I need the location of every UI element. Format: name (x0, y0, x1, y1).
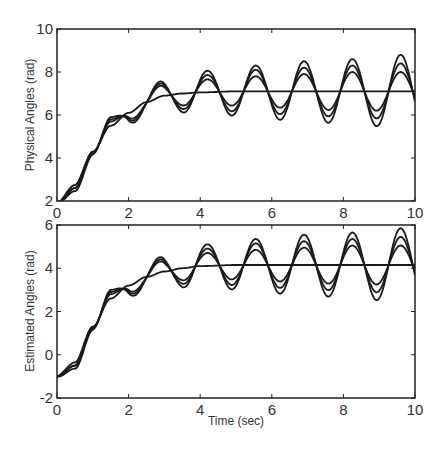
axes-frame (57, 29, 415, 201)
x-tick-label: 2 (124, 204, 132, 221)
y-tick-label: 8 (45, 63, 53, 80)
x-tick-label: 6 (268, 204, 276, 221)
series-response-large (57, 55, 415, 203)
x-tick-label: 2 (124, 401, 132, 418)
y-tick-label: 2 (45, 303, 53, 320)
y-axis-label-bottom: Estimated Angles (rad) (23, 250, 37, 371)
series-response-large (57, 228, 415, 376)
y-tick-label: 4 (45, 259, 53, 276)
x-tick-label: 8 (339, 401, 347, 418)
y-tick-label: 6 (45, 216, 53, 233)
y-tick-label: 10 (36, 20, 53, 37)
y-tick-label: 6 (45, 106, 53, 123)
x-tick-label: 6 (268, 401, 276, 418)
x-tick-label: 0 (53, 204, 61, 221)
x-tick-label: 10 (407, 204, 424, 221)
x-tick-label: 10 (407, 401, 424, 418)
plot-physical-angles: 0246810246810 (36, 20, 423, 221)
x-tick-label: 4 (196, 204, 204, 221)
figure: 0246810246810 0246810-20246 Physical Ang… (0, 0, 442, 451)
x-axis-label: Time (sec) (208, 414, 264, 428)
y-tick-label: 2 (45, 192, 53, 209)
x-tick-label: 4 (196, 401, 204, 418)
x-tick-label: 8 (339, 204, 347, 221)
y-tick-label: -2 (40, 389, 53, 406)
y-tick-label: 0 (45, 346, 53, 363)
plot-estimated-angles: 0246810-20246 (40, 216, 424, 418)
x-tick-label: 0 (53, 401, 61, 418)
y-tick-label: 4 (45, 149, 53, 166)
y-axis-label-top: Physical Angles (rad) (23, 59, 37, 172)
